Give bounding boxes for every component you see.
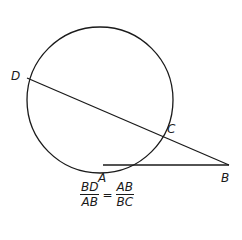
secant-line-db bbox=[27, 78, 229, 165]
equals-sign: = bbox=[102, 188, 112, 202]
label-b: B bbox=[221, 171, 229, 185]
left-numerator: BD bbox=[80, 180, 99, 195]
right-fraction: AB BC bbox=[116, 180, 134, 209]
label-d: D bbox=[11, 69, 20, 83]
right-denominator: BC bbox=[116, 195, 133, 209]
ratio-formula: BD AB = AB BC bbox=[80, 180, 134, 209]
right-numerator: AB bbox=[116, 180, 134, 195]
left-fraction: BD AB bbox=[80, 180, 99, 209]
circle bbox=[27, 27, 173, 173]
left-denominator: AB bbox=[82, 195, 98, 209]
label-c: C bbox=[167, 122, 176, 136]
